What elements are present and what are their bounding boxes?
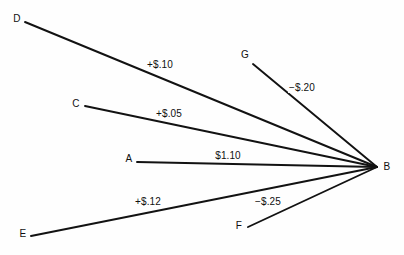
node-label-b: B: [384, 162, 391, 172]
edge-value-a-to-b: $1.10: [214, 151, 242, 161]
edge-line-group: [25, 22, 377, 236]
edge-value-g-to-b: −$.20: [288, 83, 316, 93]
edge-value-c-to-b: +$.05: [155, 109, 183, 119]
node-label-c: C: [72, 99, 79, 109]
edge-value-d-to-b: +$.10: [146, 60, 174, 70]
edge-D-to-B: [25, 22, 377, 167]
edge-E-to-B: [31, 167, 377, 236]
edges-layer: [0, 0, 404, 255]
edge-value-e-to-b: +$.12: [134, 197, 162, 207]
node-label-e: E: [20, 229, 27, 239]
diagram-canvas: DGCAEFB +$.10−$.20+$.05$1.10+$.12−$.25: [0, 0, 404, 255]
edge-A-to-B: [137, 162, 377, 167]
node-label-a: A: [126, 154, 133, 164]
edge-value-f-to-b: −$.25: [254, 197, 282, 207]
node-label-f: F: [236, 221, 242, 231]
edge-G-to-B: [253, 64, 377, 167]
node-label-d: D: [13, 14, 20, 24]
node-label-g: G: [241, 50, 249, 60]
